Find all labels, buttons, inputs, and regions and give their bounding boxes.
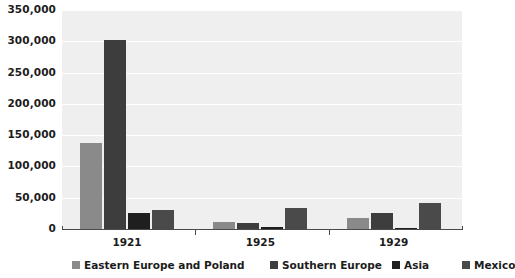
bar: [285, 208, 307, 229]
legend-swatch-icon: [72, 261, 80, 269]
legend-swatch-icon: [392, 261, 400, 269]
y-axis-tick-label: 0: [2, 222, 56, 234]
legend-item: Asia: [392, 259, 429, 271]
x-axis-right-cap: [462, 226, 463, 230]
bar: [347, 218, 369, 229]
legend-swatch-icon: [270, 261, 278, 269]
legend-swatch-icon: [462, 261, 470, 269]
x-axis-left-cap: [62, 226, 63, 230]
bar: [237, 223, 259, 229]
y-axis-tick-label: 50,000: [2, 191, 56, 203]
y-axis-tick-label: 200,000: [2, 97, 56, 109]
x-axis-category-label: 1921: [112, 236, 141, 248]
bar: [80, 143, 102, 229]
y-axis-tick-label: 100,000: [2, 159, 56, 171]
legend-item: Southern Europe: [270, 259, 382, 271]
chart-legend: Eastern Europe and PolandSouthern Europe…: [62, 257, 474, 275]
x-axis-tick: [195, 229, 196, 235]
y-axis-tick-label: 350,000: [2, 3, 56, 15]
bar: [419, 203, 441, 229]
legend-label: Southern Europe: [282, 259, 382, 271]
x-axis-line: [62, 229, 463, 230]
bar: [152, 210, 174, 229]
bar: [371, 213, 393, 229]
bar: [213, 222, 235, 229]
bar: [128, 213, 150, 229]
y-axis-tick-label: 300,000: [2, 34, 56, 46]
legend-label: Eastern Europe and Poland: [84, 259, 245, 271]
gridline: [62, 10, 462, 11]
legend-item: Mexico: [462, 259, 515, 271]
x-axis-tick: [329, 229, 330, 235]
bar: [261, 227, 283, 229]
legend-label: Mexico: [474, 259, 515, 271]
y-axis-tick-label: 250,000: [2, 66, 56, 78]
bar: [104, 40, 126, 229]
y-axis-tick-label: 150,000: [2, 128, 56, 140]
bar: [395, 228, 417, 229]
x-axis-category-label: 1929: [379, 236, 408, 248]
y-axis: 050,000100,000150,000200,000250,000300,0…: [0, 0, 56, 240]
legend-item: Eastern Europe and Poland: [72, 259, 245, 271]
legend-label: Asia: [404, 259, 429, 271]
x-axis-category-label: 1925: [246, 236, 275, 248]
